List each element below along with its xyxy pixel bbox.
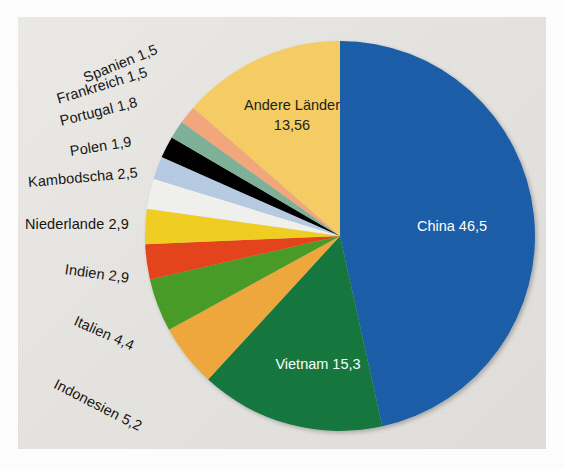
slice-label-niederlande: Niederlande 2,9: [25, 216, 129, 232]
slice-label-china: China 46,5: [397, 218, 507, 234]
slice-label-vietnam-text: Vietnam 15,3: [275, 356, 360, 372]
pie-chart-figure: China 46,5 Vietnam 15,3 Andere Länder 13…: [0, 0, 564, 469]
slice-label-andere-laender-line1: Andere Länder: [222, 96, 362, 116]
slice-label-andere-laender: Andere Länder 13,56: [222, 96, 362, 135]
slice-label-china-text: China 46,5: [417, 218, 487, 234]
slice-label-niederlande-text: Niederlande 2,9: [25, 216, 129, 232]
slice-label-andere-laender-line2: 13,56: [222, 116, 362, 136]
slice-label-vietnam: Vietnam 15,3: [258, 356, 378, 372]
